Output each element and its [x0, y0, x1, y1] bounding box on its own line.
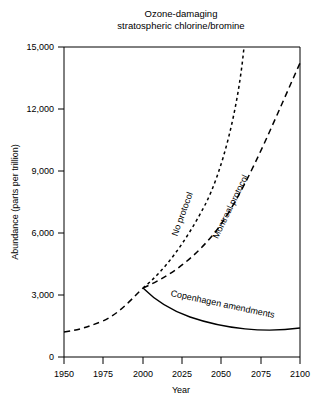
x-tick-label-2100: 2100 [290, 369, 310, 379]
series-no-protocol-curve [143, 47, 244, 288]
y-tick-label-6000: 6,000 [31, 228, 54, 238]
y-tick-label-9000: 9,000 [31, 166, 54, 176]
x-tick-label-2000: 2000 [133, 369, 153, 379]
x-tick-label-2075: 2075 [251, 369, 271, 379]
x-tick-label-1950: 1950 [54, 369, 74, 379]
x-axis-ticks [64, 357, 300, 364]
series-montreal-protocol-curve [143, 63, 300, 288]
ozone-abundance-line-chart: Ozone-damaging stratospheric chlorine/br… [0, 0, 323, 409]
chart-title-line-2: stratospheric chlorine/bromine [117, 20, 244, 31]
y-tick-label-15000: 15,000 [26, 42, 54, 52]
y-tick-label-0: 0 [49, 352, 54, 362]
y-tick-label-12000: 12,000 [26, 104, 54, 114]
x-tick-label-2050: 2050 [211, 369, 231, 379]
x-axis-title: Year [172, 385, 190, 395]
series-historical-curve [64, 288, 143, 332]
x-tick-label-1975: 1975 [93, 369, 113, 379]
y-tick-label-3000: 3,000 [31, 290, 54, 300]
curve-label-montreal-protocol: Montreal protocol [211, 173, 250, 240]
chart-figure: Ozone-damaging stratospheric chlorine/br… [0, 0, 323, 409]
x-tick-label-2025: 2025 [172, 369, 192, 379]
chart-title-line-1: Ozone-damaging [145, 8, 218, 19]
y-axis-ticks [58, 47, 64, 357]
series-copenhagen-amendments-curve [143, 288, 300, 330]
y-axis-title: Abundance (parts per trillion) [10, 144, 20, 260]
